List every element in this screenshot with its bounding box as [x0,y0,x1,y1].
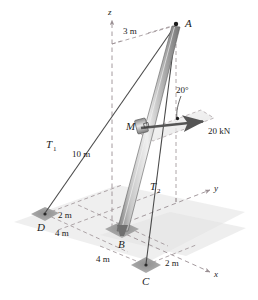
leader-3m-right [148,26,172,33]
statics-figure: z y x A B C D M T 1 T 2 3 m 10 m 2 m 4 m… [0,0,258,300]
leader-3m [112,40,124,44]
axis-label-x: x [213,269,218,279]
dimension-4m-bc: 4 m [96,254,110,264]
point-label-a: A [184,17,192,29]
dimension-2m-d: 2 m [58,210,72,220]
angle-vertex-dot [176,117,179,120]
mast-apex [174,22,178,26]
figure-canvas: z y x A B C D M T 1 T 2 3 m 10 m 2 m 4 m… [0,0,258,300]
point-label-d: D [36,221,45,233]
axis-label-z: z [107,7,112,17]
force-magnitude-label: 20 kN [208,126,231,136]
dimension-4m-db: 4 m [55,228,69,238]
force-angle-label: 20° [176,85,189,95]
cable-label-t1: T 1 [46,138,57,153]
cable-label-t2-subscript: 2 [157,187,161,195]
cable-label-t1-subscript: 1 [53,145,57,153]
dimension-3m: 3 m [123,26,137,36]
cable-label-t1-letter: T [46,138,53,150]
point-label-m: M [125,120,136,132]
point-label-b: B [118,238,125,250]
angle-leader-20deg [177,96,181,118]
cable-label-t2-letter: T [150,180,157,192]
axis-label-y: y [213,183,218,193]
dimension-10m: 10 m [72,149,90,159]
dimension-2m-c: 2 m [165,258,179,268]
point-label-c: C [142,275,150,287]
